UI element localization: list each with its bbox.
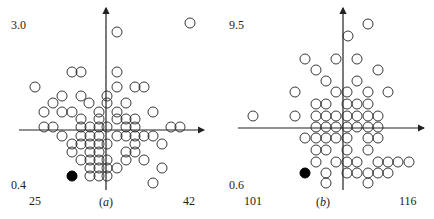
data-point: [383, 168, 393, 178]
data-point: [85, 163, 95, 173]
data-point: [94, 131, 104, 141]
data-point: [139, 131, 149, 141]
panel-b-x-right-label: 116: [399, 195, 417, 207]
data-point: [373, 122, 383, 132]
data-point: [130, 139, 140, 149]
data-point: [94, 139, 104, 149]
data-point: [30, 82, 40, 92]
panel-a-caption-letter: a: [103, 195, 109, 209]
data-point: [112, 82, 122, 92]
highlighted-data-point: [67, 171, 77, 181]
data-point: [112, 114, 122, 124]
data-point: [94, 163, 104, 173]
data-point: [311, 122, 321, 132]
data-point: [290, 111, 300, 121]
data-point: [94, 155, 104, 165]
data-point: [404, 157, 414, 167]
data-point: [321, 111, 331, 121]
data-point: [321, 122, 331, 132]
data-point: [331, 122, 341, 132]
data-point: [185, 18, 195, 28]
data-point: [352, 157, 362, 167]
data-point: [39, 107, 49, 117]
data-point: [383, 157, 393, 167]
data-point: [85, 171, 95, 181]
data-point: [373, 65, 383, 75]
data-point: [102, 98, 112, 108]
data-point: [57, 91, 67, 101]
panel-b-y-bottom-label: 0.6: [229, 179, 244, 191]
scatter-figure: [0, 0, 434, 219]
panel-a-y-top-label: 3.0: [11, 19, 26, 31]
data-point: [311, 133, 321, 143]
data-point: [121, 98, 131, 108]
data-point: [321, 133, 331, 143]
data-point: [130, 82, 140, 92]
data-point: [321, 178, 331, 188]
data-point: [130, 147, 140, 157]
panel-b-plot: [238, 8, 424, 190]
data-point: [112, 131, 122, 141]
panel-a-y-bottom-label: 0.4: [11, 179, 26, 191]
data-point: [300, 133, 310, 143]
data-point: [321, 76, 331, 86]
data-point: [102, 155, 112, 165]
highlighted-data-point: [300, 168, 310, 178]
data-point: [76, 139, 86, 149]
data-point: [373, 111, 383, 121]
data-point: [352, 76, 362, 86]
panel-a-x-right-label: 42: [183, 195, 195, 207]
data-point: [363, 145, 373, 155]
data-point: [331, 133, 341, 143]
data-point: [139, 155, 149, 165]
data-point: [57, 107, 67, 117]
data-point: [121, 114, 131, 124]
data-point: [102, 139, 112, 149]
data-point: [148, 131, 158, 141]
data-point: [311, 157, 321, 167]
data-point: [352, 111, 362, 121]
data-point: [331, 87, 341, 97]
data-point: [121, 147, 131, 157]
data-point: [352, 122, 362, 132]
panel-a-plot: [19, 8, 204, 190]
panel-a-x-left-label: 25: [29, 195, 41, 207]
data-point: [321, 168, 331, 178]
data-point: [121, 131, 131, 141]
panel-b-caption: (b): [316, 196, 330, 208]
panel-b-x-left-label: 101: [244, 195, 262, 207]
panel-b-caption-letter: b: [320, 195, 326, 209]
data-point: [290, 87, 300, 97]
data-point: [352, 168, 362, 178]
data-point: [300, 54, 310, 64]
data-point: [383, 87, 393, 97]
data-point: [363, 19, 373, 29]
data-point: [157, 139, 167, 149]
data-point: [102, 171, 112, 181]
data-point: [331, 157, 341, 167]
data-point: [85, 139, 95, 149]
data-point: [130, 114, 140, 124]
data-point: [102, 163, 112, 173]
data-point: [67, 107, 77, 117]
data-point: [76, 67, 86, 77]
data-point: [363, 122, 373, 132]
data-point: [321, 99, 331, 109]
data-point: [373, 157, 383, 167]
data-point: [321, 145, 331, 155]
data-point: [94, 147, 104, 157]
data-point: [331, 111, 341, 121]
data-point: [94, 114, 104, 124]
data-point: [76, 155, 86, 165]
data-point: [112, 67, 122, 77]
data-point: [363, 111, 373, 121]
panel-b-y-top-label: 9.5: [229, 19, 244, 31]
data-point: [343, 31, 353, 41]
data-point: [67, 67, 77, 77]
data-point: [311, 111, 321, 121]
data-point: [84, 98, 94, 108]
data-point: [352, 54, 362, 64]
data-point: [85, 131, 95, 141]
data-point: [248, 111, 258, 121]
data-point: [130, 131, 140, 141]
